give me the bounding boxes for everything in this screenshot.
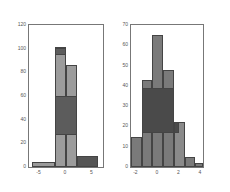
histogram-layer: [55, 96, 76, 135]
y-tick-label: 60: [12, 92, 26, 98]
y-tick-label: 100: [12, 45, 26, 51]
y-tick-label: 20: [12, 139, 26, 145]
y-tick-label: 20: [114, 122, 128, 128]
y-tick-label: 70: [114, 21, 128, 27]
y-tick-label: 80: [12, 68, 26, 74]
y-tick-label: 40: [12, 116, 26, 122]
histogram-bar: [185, 157, 196, 167]
histogram-bar: [77, 156, 98, 167]
histogram-layer: [174, 122, 179, 132]
histogram-bar: [131, 137, 142, 167]
x-tick-label: -2: [129, 169, 141, 175]
x-tick-label: -5: [33, 169, 45, 175]
histogram-bar: [32, 162, 56, 167]
y-tick-label: 0: [114, 163, 128, 169]
x-tick-label: 0: [59, 169, 71, 175]
y-tick-label: 40: [114, 82, 128, 88]
histogram-layer: [55, 48, 66, 55]
histogram-layer: [142, 88, 174, 133]
y-tick-label: 30: [114, 102, 128, 108]
y-tick-label: 0: [12, 163, 26, 169]
y-tick-label: 10: [114, 143, 128, 149]
x-tick-label: 4: [194, 169, 206, 175]
y-tick-label: 120: [12, 21, 26, 27]
histogram-bar: [195, 163, 203, 167]
y-tick-label: 50: [114, 62, 128, 68]
y-tick-label: 60: [114, 41, 128, 47]
x-tick-label: 2: [172, 169, 184, 175]
x-tick-label: 5: [85, 169, 97, 175]
left-histogram-axes: [28, 24, 104, 168]
right-histogram-axes: [130, 24, 204, 168]
x-tick-label: 0: [151, 169, 163, 175]
